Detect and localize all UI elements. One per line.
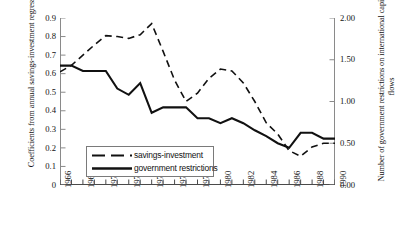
y-axis-left-ticklabel: 0.9 <box>30 14 56 23</box>
legend-label-savings-investment: savings-investment <box>134 151 203 160</box>
legend-label-government-restrictions: government restrictions <box>134 164 218 173</box>
y-axis-left-ticklabel: 0.8 <box>30 32 56 41</box>
y-axis-right-ticklabel: 1.00 <box>340 97 370 106</box>
legend-item-government-restrictions: government restrictions <box>90 162 210 175</box>
legend-item-savings-investment: savings-investment <box>90 149 210 162</box>
chart-legend: savings-investment government restrictio… <box>86 146 214 177</box>
chart-figure: Coefficients from annual savings-investm… <box>0 0 398 225</box>
y-axis-left-ticklabel: 0.7 <box>30 51 56 60</box>
legend-key-dashed-icon <box>90 150 134 161</box>
y-axis-right-ticklabel: 0.50 <box>340 139 370 148</box>
y-axis-left-ticklabel: 0 <box>30 181 56 190</box>
y-axis-left-ticklabel: 0.4 <box>30 106 56 115</box>
y-axis-right-ticklabel: 1.50 <box>340 55 370 64</box>
y-axis-left-ticklabel: 0.2 <box>30 144 56 153</box>
series-line-government-restrictions <box>60 66 335 148</box>
y-axis-left-ticklabel: 0.1 <box>30 162 56 171</box>
x-axis-ticks <box>60 180 335 185</box>
y-axis-left-ticklabel: 0.3 <box>30 125 56 134</box>
y-axis-left-ticklabel: 0.6 <box>30 69 56 78</box>
y-axis-left-ticklabel: 0.5 <box>30 88 56 97</box>
y-axis-right-title: Number of government restrictions on int… <box>377 0 396 182</box>
y-axis-right-ticks <box>330 18 335 185</box>
legend-key-solid-icon <box>90 163 134 174</box>
y-axis-right-ticklabel: 2.00 <box>340 14 370 23</box>
x-axis-ticklabel: 1990 <box>339 171 348 188</box>
series-line-savings-investment <box>60 24 335 157</box>
y-axis-left-ticks <box>61 18 66 185</box>
